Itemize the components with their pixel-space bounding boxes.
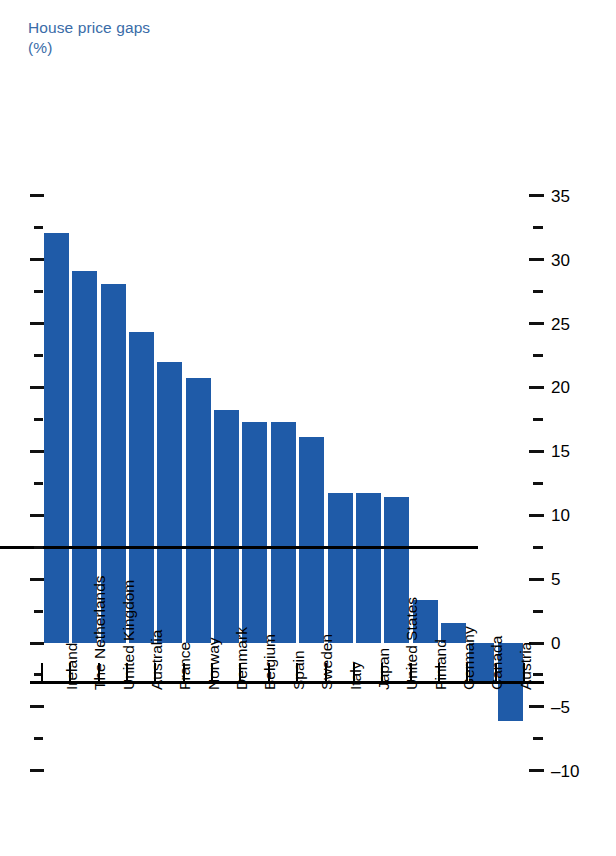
category-divider	[268, 663, 270, 682]
y-tick-major-right	[529, 322, 544, 325]
category-label: United Kingdom	[121, 580, 137, 690]
y-tick-minor-right	[533, 354, 543, 357]
category-divider	[325, 663, 327, 682]
y-tick-major-left	[30, 514, 44, 517]
zero-baseline	[0, 546, 478, 549]
y-tick-major-left	[30, 578, 44, 581]
category-label: Australia	[149, 630, 165, 690]
y-tick-major-left	[30, 769, 44, 772]
y-tick-major-right	[529, 705, 544, 708]
category-divider	[466, 663, 468, 682]
y-tick-minor-right	[533, 737, 543, 740]
category-divider	[523, 663, 525, 682]
y-axis-label: 0	[551, 635, 560, 652]
category-divider	[183, 663, 185, 682]
y-tick-minor-left	[34, 546, 43, 549]
y-tick-major-right	[529, 386, 544, 389]
category-divider	[69, 663, 71, 682]
y-tick-minor-right	[533, 482, 543, 485]
category-label: Finland	[433, 639, 449, 690]
y-tick-minor-right	[533, 226, 543, 229]
category-divider	[211, 663, 213, 682]
y-tick-minor-left	[34, 737, 43, 740]
category-divider	[296, 663, 298, 682]
category-label: Canada	[489, 636, 505, 690]
y-tick-major-right	[529, 578, 544, 581]
category-label: Italy	[348, 662, 364, 690]
y-tick-minor-right	[533, 610, 543, 613]
category-label: Austria	[518, 642, 534, 690]
y-tick-major-left	[30, 258, 44, 261]
bar	[271, 422, 296, 643]
category-divider	[381, 663, 383, 682]
category-label: France	[177, 642, 193, 690]
bar	[299, 437, 324, 643]
category-divider	[438, 663, 440, 682]
bar	[214, 410, 239, 643]
category-divider	[41, 663, 43, 682]
y-axis-label: 10	[551, 507, 570, 524]
y-tick-major-left	[30, 322, 44, 325]
bar	[186, 378, 211, 643]
y-tick-major-left	[30, 386, 44, 389]
category-divider	[98, 663, 100, 682]
category-label: Denmark	[234, 627, 250, 690]
y-tick-minor-left	[34, 226, 43, 229]
category-label: Spain	[291, 650, 307, 690]
y-tick-major-right	[529, 258, 544, 261]
y-tick-major-right	[529, 769, 544, 772]
y-axis-label: 30	[551, 252, 570, 269]
y-tick-major-right	[529, 450, 544, 453]
y-axis-label: 5	[551, 571, 560, 588]
category-divider	[126, 663, 128, 682]
category-label: United States	[404, 597, 420, 690]
y-tick-minor-left	[34, 290, 43, 293]
y-tick-minor-left	[34, 354, 43, 357]
bar	[44, 233, 69, 643]
y-axis-label: 20	[551, 379, 570, 396]
y-tick-minor-right	[533, 290, 543, 293]
y-tick-minor-right	[533, 673, 543, 676]
category-label: Norway	[206, 637, 222, 690]
y-axis-label: 35	[551, 188, 570, 205]
category-label: Japan	[376, 648, 392, 690]
y-tick-minor-left	[34, 418, 43, 421]
y-tick-major-left	[30, 194, 44, 197]
bar	[328, 493, 353, 643]
category-label: The Netherlands	[92, 575, 108, 690]
bar	[242, 422, 267, 643]
y-tick-minor-left	[34, 610, 43, 613]
y-tick-major-left	[30, 705, 44, 708]
category-divider	[353, 663, 355, 682]
category-divider	[154, 663, 156, 682]
category-label: Germany	[461, 626, 477, 690]
y-tick-major-left	[30, 450, 44, 453]
y-axis-label: 15	[551, 443, 570, 460]
y-tick-minor-left	[34, 482, 43, 485]
y-tick-minor-right	[533, 546, 543, 549]
y-axis-label: –5	[551, 699, 570, 716]
category-divider	[495, 663, 497, 682]
y-tick-minor-right	[533, 418, 543, 421]
category-label: Belgium	[262, 634, 278, 690]
y-tick-major-right	[529, 514, 544, 517]
category-divider	[410, 663, 412, 682]
bar	[356, 493, 381, 643]
y-tick-major-left	[30, 642, 44, 645]
category-divider	[239, 663, 241, 682]
chart-title: House price gaps (%)	[28, 18, 150, 58]
y-axis-label: 25	[551, 316, 570, 333]
y-tick-major-right	[529, 194, 544, 197]
category-label: Ireland	[64, 643, 80, 690]
bar	[157, 362, 182, 643]
category-label: Sweden	[319, 634, 335, 690]
y-axis-label: –10	[551, 763, 579, 780]
